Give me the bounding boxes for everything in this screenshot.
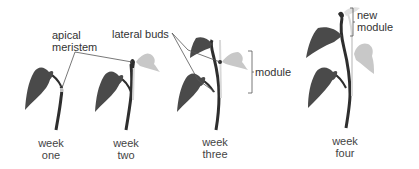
new-module-label: new module — [357, 9, 393, 33]
caption-week-three: week three — [190, 136, 240, 160]
caption-week-two-line1: week — [101, 137, 151, 149]
caption-week-three-line1: week — [190, 136, 240, 148]
caption-week-two-line2: two — [101, 149, 151, 161]
caption-week-one-line1: week — [26, 137, 76, 149]
caption-week-four: week four — [320, 135, 370, 159]
caption-week-two: week two — [101, 137, 151, 161]
new-module-label-line2: module — [357, 21, 393, 33]
plant-week-three — [177, 37, 248, 130]
caption-week-one: week one — [26, 137, 76, 161]
lateral-buds-label-text: lateral buds — [112, 28, 169, 40]
caption-week-four-line1: week — [320, 135, 370, 147]
plant-week-two — [95, 53, 160, 130]
module-label-text: module — [255, 66, 291, 78]
module-label: module — [255, 66, 291, 78]
plant-growth-diagram: apical meristem lateral buds module new … — [0, 0, 419, 169]
apical-meristem-label-line1: apical — [52, 29, 97, 41]
plant-week-one — [25, 68, 63, 131]
caption-week-one-line2: one — [26, 149, 76, 161]
caption-week-three-line2: three — [190, 148, 240, 160]
new-module-label-line1: new — [357, 9, 393, 21]
apical-meristem-label: apical meristem — [52, 29, 97, 53]
lateral-buds-label: lateral buds — [112, 28, 169, 40]
apical-meristem-label-line2: meristem — [52, 41, 97, 53]
caption-week-four-line2: four — [320, 147, 370, 159]
